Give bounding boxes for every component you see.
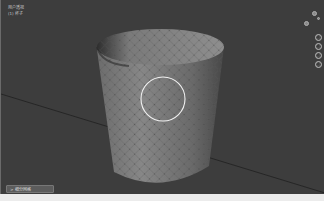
camera-view-button[interactable] (315, 52, 322, 59)
pan-button[interactable] (315, 43, 322, 50)
status-bar (0, 194, 324, 201)
z-axis-icon[interactable] (312, 11, 317, 16)
zoom-button[interactable] (315, 34, 322, 41)
operator-panel[interactable]: > 细分网格 (6, 185, 54, 193)
cup-mesh (97, 29, 224, 183)
x-axis-icon[interactable] (317, 17, 320, 20)
object-label: (1) 杯子 (8, 11, 23, 16)
operator-panel-label: > 细分网格 (10, 187, 31, 192)
y-axis-icon[interactable] (304, 21, 309, 26)
3d-viewport[interactable]: 用户透视 (1) 杯子 > 细分网格 (0, 0, 324, 194)
view-label: 用户透视 (8, 5, 24, 10)
perspective-toggle-button[interactable] (315, 61, 322, 68)
scene-canvas[interactable] (1, 0, 324, 194)
